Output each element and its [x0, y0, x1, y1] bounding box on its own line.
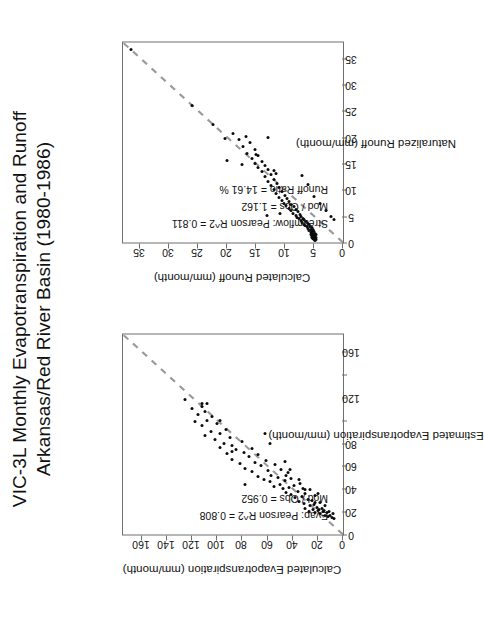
data-point [328, 510, 331, 513]
data-point [331, 512, 334, 515]
y-axis-tick-label: 35 [134, 246, 146, 258]
data-point [278, 195, 281, 198]
y-axis-tick-label: 10 [278, 246, 290, 258]
data-point [298, 478, 301, 481]
data-point [228, 435, 231, 438]
x-axis-tick-label: 120 [342, 392, 360, 404]
data-point [299, 481, 302, 484]
data-point [267, 168, 270, 171]
x-axis-tick-label: 160 [342, 346, 360, 358]
data-point [257, 166, 260, 169]
x-axis-tick-label: 15 [345, 158, 357, 170]
figure-title: VIC-3L Monthly Evapotranspiration and Ru… [8, 0, 56, 617]
data-point [260, 464, 263, 467]
data-point [203, 433, 206, 436]
data-point [237, 137, 240, 140]
data-point [244, 134, 247, 137]
data-point [284, 459, 287, 462]
data-point [270, 172, 273, 175]
data-point [266, 469, 269, 472]
y-axis-tick-label: 140 [157, 538, 175, 550]
data-point [256, 474, 259, 477]
data-point [292, 483, 295, 486]
y-axis-title: Calculated Runoff (mm/month) [154, 271, 310, 283]
data-point [211, 415, 214, 418]
data-point [197, 413, 200, 416]
data-point [265, 213, 268, 216]
data-point [212, 123, 215, 126]
chart-annotation: Evap: Pearson R^2 = 0.808 [200, 509, 328, 521]
data-point [304, 488, 307, 491]
y-axis-title: Calculated Evapotranspiration (mm/month) [123, 563, 342, 575]
data-point [203, 409, 206, 412]
y-axis-tick-label: 60 [261, 538, 273, 550]
data-point [266, 179, 269, 182]
data-point [262, 478, 265, 481]
data-point [279, 482, 282, 485]
data-point [222, 441, 225, 444]
data-point [243, 466, 246, 469]
y-axis-tick-label: 25 [191, 246, 203, 258]
data-point [269, 441, 272, 444]
data-point [270, 473, 273, 476]
x-axis-tick-label: 60 [345, 460, 357, 472]
data-point [251, 447, 254, 450]
chart-annotation: Mod / Obs = 1.162 [241, 200, 328, 212]
x-axis-tick-label: 20 [345, 506, 357, 518]
evapotranspiration-chart-panel: 020406080120160020406080100120140160Esti… [118, 327, 418, 579]
x-axis-tick [342, 216, 347, 217]
data-point [218, 432, 221, 435]
y-axis-tick-label: 20 [311, 538, 323, 550]
data-point [301, 173, 304, 176]
data-point [201, 405, 204, 408]
data-point [251, 470, 254, 473]
data-point [315, 505, 318, 508]
data-point [218, 418, 221, 421]
data-point [193, 419, 196, 422]
x-axis-tick-label: 25 [345, 105, 357, 117]
data-point [235, 448, 238, 451]
data-point [206, 401, 209, 404]
y-axis-tick-label: 100 [208, 538, 226, 550]
data-point [254, 162, 257, 165]
data-point [242, 450, 245, 453]
x-axis-tick-label: 30 [345, 79, 357, 91]
data-point [287, 486, 290, 489]
data-point [223, 136, 226, 139]
data-point [242, 145, 245, 148]
y-axis-tick-label: 15 [249, 246, 261, 258]
data-point [213, 438, 216, 441]
data-point [264, 164, 267, 167]
data-point [226, 451, 229, 454]
chart-annotation: Streamflow: Pearson R^2 = 0.811 [172, 217, 328, 229]
y-axis-tick-label: 30 [162, 246, 174, 258]
data-point [276, 475, 279, 478]
data-point [274, 463, 277, 466]
data-point [264, 432, 267, 435]
data-point [232, 131, 235, 134]
x-axis-tick-label: 0 [348, 237, 354, 249]
data-point [254, 148, 257, 151]
data-point [284, 479, 287, 482]
chart-annotation: Mod / Obs = 0.952 [241, 492, 328, 504]
y-axis-tick-label: 120 [182, 538, 200, 550]
data-point [243, 482, 246, 485]
data-point [238, 462, 241, 465]
x-axis-tick [342, 374, 347, 375]
data-point [210, 430, 213, 433]
y-axis-tick-label: 80 [236, 538, 248, 550]
data-point [289, 467, 292, 470]
y-axis-tick-label: 160 [132, 538, 150, 550]
data-point [285, 473, 288, 476]
runoff-chart-panel: 0510152025303505101520253035Naturalized … [118, 35, 418, 287]
data-point [274, 171, 277, 174]
data-point [255, 152, 258, 155]
y-axis-tick-label: 40 [286, 538, 298, 550]
y-axis-tick-label: 20 [220, 246, 232, 258]
data-point [201, 424, 204, 427]
data-point [309, 488, 312, 491]
x-axis-tick-label: 35 [345, 53, 357, 65]
data-point [265, 458, 268, 461]
data-point [272, 485, 275, 488]
